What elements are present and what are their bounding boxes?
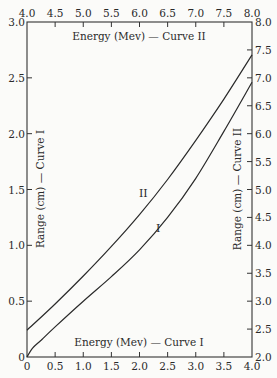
right-tick-label: 7.0 [255,72,272,84]
curve-I [27,82,252,357]
right-tick-label: 5.0 [255,184,272,196]
left-tick-label: 0.5 [8,295,25,307]
right-tick-label: 2.5 [255,323,272,335]
top-tick-label: 4.5 [47,7,64,19]
bottom-tick-label: 1.0 [75,360,92,372]
range-energy-chart: 00.51.01.52.02.53.03.54.04.04.55.05.56.0… [0,0,277,378]
right-tick-label: 4.0 [255,239,272,251]
left-tick-label: 1.5 [8,184,25,196]
right-tick-label: 4.5 [255,211,272,223]
top-tick-label: 5.5 [103,7,120,19]
left-tick-label: 0 [18,351,25,363]
bottom-tick-label: 2.5 [159,360,176,372]
left-tick-label: 2.5 [8,72,25,84]
right-tick-label: 6.5 [255,100,272,112]
left-axis-title: Range (cm) — Curve I [34,130,46,248]
top-tick-label: 7.0 [187,7,204,19]
top-tick-label: 5.0 [75,7,92,19]
bottom-tick-label: 2.0 [131,360,148,372]
top-tick-label: 7.5 [216,7,233,19]
bottom-tick-label: 1.5 [103,360,120,372]
right-axis-title: Range (cm) — Curve II [231,128,243,250]
bottom-axis-title: Energy (Mev) — Curve I [74,336,203,348]
bottom-tick-label: 3.0 [187,360,204,372]
right-tick-label: 2.0 [255,351,272,363]
bottom-tick-label: 3.5 [216,360,233,372]
bottom-tick-label: 0.5 [47,360,64,372]
left-tick-label: 1.0 [8,239,25,251]
right-tick-label: 8.0 [255,16,272,28]
top-tick-label: 6.5 [159,7,176,19]
right-tick-label: 5.5 [255,156,272,168]
right-tick-label: 3.5 [255,267,272,279]
left-tick-label: 3.0 [8,16,25,28]
right-tick-label: 3.0 [255,295,272,307]
right-tick-label: 6.0 [255,128,272,140]
curve-II-label: II [139,187,148,200]
right-tick-label: 7.5 [255,44,272,56]
left-tick-label: 2.0 [8,128,25,140]
top-axis-title: Energy (Mev) — Curve II [72,30,206,42]
top-tick-label: 6.0 [131,7,148,19]
curve-I-label: I [156,222,160,235]
curves [27,55,252,357]
